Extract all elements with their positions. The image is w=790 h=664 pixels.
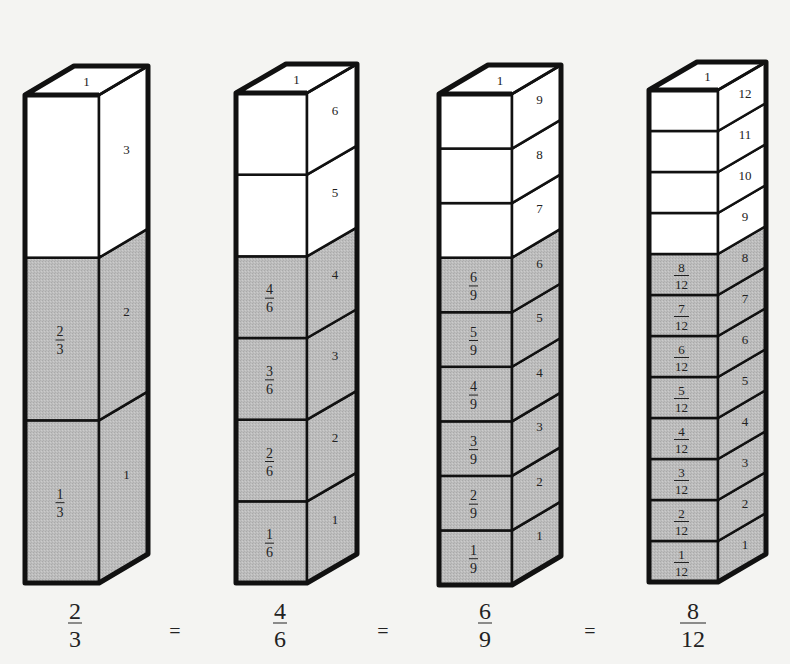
fraction-numerator: 6: [678, 342, 685, 357]
unit-count-label: 2: [123, 304, 130, 319]
unit-front: [649, 131, 718, 172]
fraction-denominator: 9: [470, 343, 477, 358]
unit-count-label: 2: [536, 474, 543, 489]
unit-fraction-label: 49: [469, 379, 478, 412]
unit-fraction-label: 46: [265, 282, 274, 315]
fraction-numerator: 2: [678, 506, 685, 521]
unit-front: [439, 149, 512, 204]
unit-count-label: 8: [536, 147, 543, 162]
shaded-unit-front: [439, 312, 512, 367]
unit-count-label: 3: [123, 142, 130, 157]
unit-front: [236, 93, 307, 175]
fraction-numerator: 1: [57, 487, 64, 502]
fraction-denominator: 6: [266, 300, 273, 315]
unit-count-label: 2: [332, 430, 339, 445]
unit-count-label: 3: [536, 419, 543, 434]
column-ninths: 1912923934945956967891: [439, 65, 561, 585]
fraction-denominator: 9: [470, 397, 477, 412]
equation-row: 234669812===: [68, 598, 706, 652]
fraction-denominator: 9: [470, 288, 477, 303]
unit-count-label: 3: [742, 455, 749, 470]
fraction-numerator: 1: [470, 543, 477, 558]
unit-count-label: 6: [536, 256, 543, 271]
fraction-numerator: 3: [470, 434, 477, 449]
unit-front: [649, 213, 718, 254]
unit-front: [439, 203, 512, 258]
fraction-numerator: 3: [266, 364, 273, 379]
fraction-denominator: 3: [57, 505, 64, 520]
fraction-denominator: 9: [470, 452, 477, 467]
unit-count-label: 1: [536, 528, 543, 543]
fraction-denominator: 12: [675, 482, 688, 497]
unit-count-label: 4: [536, 365, 543, 380]
fraction-denominator: 6: [274, 626, 286, 652]
fraction-numerator: 6: [470, 270, 477, 285]
fraction-denominator: 12: [675, 318, 688, 333]
fraction-denominator: 3: [57, 342, 64, 357]
fraction-numerator: 2: [266, 446, 273, 461]
fraction-numerator: 4: [274, 598, 286, 624]
fraction-denominator: 6: [266, 382, 273, 397]
unit-count-label: 9: [536, 92, 543, 107]
fraction-denominator: 6: [266, 545, 273, 560]
column-thirds: 13123231: [25, 66, 148, 583]
fraction-numerator: 8: [687, 598, 699, 624]
unit-front: [649, 90, 718, 131]
fraction-numerator: 4: [266, 282, 273, 297]
fraction-denominator: 12: [675, 523, 688, 538]
unit-fraction-label: 19: [469, 543, 478, 576]
fraction-numerator: 8: [678, 260, 685, 275]
fraction-numerator: 7: [678, 301, 685, 316]
shaded-unit-front: [25, 258, 99, 421]
fraction-denominator: 12: [681, 626, 705, 652]
fraction-denominator: 12: [675, 564, 688, 579]
unit-count-label: 5: [536, 310, 543, 325]
unit-count-label: 1: [742, 537, 749, 552]
unit-count-label: 5: [332, 185, 339, 200]
unit-count-label: 11: [739, 127, 752, 142]
fraction-numerator: 1: [266, 527, 273, 542]
unit-fraction-label: 59: [469, 325, 478, 358]
fraction-numerator: 3: [678, 465, 685, 480]
unit-count-label: 1: [123, 467, 130, 482]
unit-fraction-label: 39: [469, 434, 478, 467]
unit-count-label: 4: [742, 414, 749, 429]
fraction-numerator: 1: [678, 547, 685, 562]
column-sixths: 161262363464561: [236, 64, 357, 583]
fraction-numerator: 2: [69, 598, 81, 624]
unit-side: [99, 66, 148, 258]
whole-label: 1: [704, 69, 711, 84]
fraction-numerator: 5: [470, 325, 477, 340]
equals-sign: =: [169, 620, 180, 642]
fraction-denominator: 6: [266, 464, 273, 479]
unit-count-label: 10: [739, 168, 752, 183]
fraction-denominator: 12: [675, 277, 688, 292]
diagram-canvas: 1312323116126236346456119129239349459569…: [0, 0, 790, 664]
unit-count-label: 5: [742, 373, 749, 388]
equals-sign: =: [377, 620, 388, 642]
fraction-numerator: 2: [470, 488, 477, 503]
unit-front: [236, 175, 307, 257]
equivalent-fraction-sixths: 46: [273, 598, 287, 652]
fraction-denominator: 12: [675, 441, 688, 456]
fraction-numerator: 5: [678, 383, 685, 398]
fraction-denominator: 9: [470, 561, 477, 576]
unit-count-label: 3: [332, 348, 339, 363]
unit-fraction-label: 36: [265, 364, 274, 397]
equivalent-fraction-ninths: 69: [478, 598, 492, 652]
fraction-denominator: 9: [479, 626, 491, 652]
column-twelfths: 1121212231234124512561267127812891011121: [649, 62, 766, 582]
unit-front: [649, 172, 718, 213]
unit-count-label: 7: [742, 291, 749, 306]
unit-front: [439, 94, 512, 149]
fraction-numerator: 6: [479, 598, 491, 624]
unit-count-label: 1: [332, 512, 339, 527]
shaded-unit-side: [99, 391, 148, 583]
fraction-denominator: 3: [69, 626, 81, 652]
unit-count-label: 8: [742, 250, 749, 265]
whole-label: 1: [83, 74, 90, 89]
unit-count-label: 9: [742, 209, 749, 224]
fraction-denominator: 9: [470, 506, 477, 521]
unit-count-label: 12: [739, 86, 752, 101]
equivalent-fraction-thirds: 23: [68, 598, 82, 652]
